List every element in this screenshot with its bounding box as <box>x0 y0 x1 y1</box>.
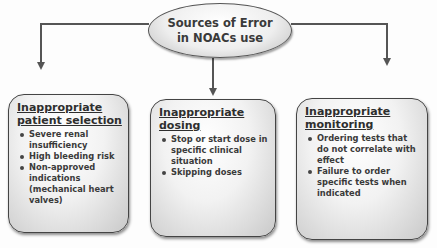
bullet-list: Ordering tests that do not correlate wit… <box>305 133 421 199</box>
root-node-sources-of-error: Sources of Error in NOACs use <box>148 3 292 58</box>
box-dosing: Inappropriate dosing Stop or start dose … <box>150 99 276 237</box>
list-item: Non-approved indications (mechanical hea… <box>29 162 122 206</box>
bullet-list: Stop or start dose in specific clinical … <box>159 134 269 178</box>
list-item: Failure to order specific tests when ind… <box>317 166 421 199</box>
arrow-to-patient-selection <box>41 24 149 66</box>
box-monitoring: Inappropriate monitoring Ordering tests … <box>296 98 428 240</box>
list-item: Severe renal insufficiency <box>29 129 122 151</box>
box-title: Inappropriate dosing <box>159 106 269 132</box>
box-title: Inappropriate patient selection <box>17 101 122 127</box>
list-item: Skipping doses <box>171 167 269 178</box>
bullet-list: Severe renal insufficiency High bleeding… <box>17 129 122 206</box>
list-item: Stop or start dose in specific clinical … <box>171 134 269 167</box>
box-title: Inappropriate monitoring <box>305 105 421 131</box>
box-patient-selection: Inappropriate patient selection Severe r… <box>8 94 129 233</box>
root-node-line2: in NOACs use <box>177 31 263 46</box>
arrow-to-monitoring <box>291 24 387 62</box>
root-node-line1: Sources of Error <box>167 16 272 31</box>
list-item: Ordering tests that do not correlate wit… <box>317 133 421 166</box>
list-item: High bleeding risk <box>29 151 122 162</box>
